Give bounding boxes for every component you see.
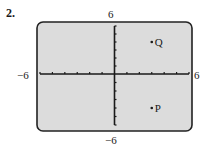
point-marker: [150, 107, 153, 110]
x-max-label: 6: [194, 70, 200, 81]
y-min-label: −6: [105, 135, 117, 146]
point-label: Q: [155, 36, 163, 48]
coordinate-plane: QP: [0, 0, 205, 150]
point-label: P: [155, 102, 161, 114]
x-min-label: −6: [17, 70, 29, 81]
point-marker: [150, 41, 153, 44]
y-max-label: 6: [108, 9, 114, 20]
